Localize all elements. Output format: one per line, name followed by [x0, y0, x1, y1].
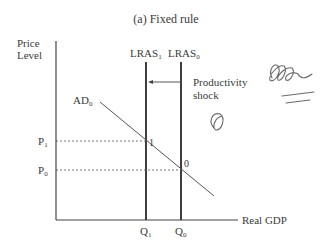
diagram-title: (a) Fixed rule [133, 12, 198, 26]
scribble-word [270, 65, 312, 81]
annotation-line2: shock [193, 89, 219, 101]
ad0-line [100, 102, 214, 196]
p1-label: P1 [38, 135, 48, 149]
lras0-label: LRAS0 [168, 47, 200, 61]
q0-label: Q0 [175, 225, 187, 239]
annotation-line1: Productivity [193, 76, 248, 88]
q1-label: Q1 [140, 225, 152, 239]
y-axis-label-line2: Level [17, 49, 42, 61]
scribble-underline-1 [282, 92, 314, 96]
diagram-canvas: (a) Fixed rule Price Level Real GDP LRAS… [0, 0, 333, 248]
lras1-label: LRAS1 [130, 47, 162, 61]
ad0-label: AD0 [73, 94, 93, 108]
scribble-underline-2 [286, 100, 310, 103]
y-axis-label-line1: Price [17, 37, 40, 49]
scribble-circle [211, 114, 223, 130]
p0-label: P0 [38, 164, 48, 178]
point-1-label: 1 [149, 137, 154, 148]
point-0-label: 0 [184, 158, 189, 169]
x-axis-label: Real GDP [242, 214, 287, 226]
shift-arrow-head-icon [148, 80, 153, 84]
handwriting-scribble [211, 65, 314, 130]
